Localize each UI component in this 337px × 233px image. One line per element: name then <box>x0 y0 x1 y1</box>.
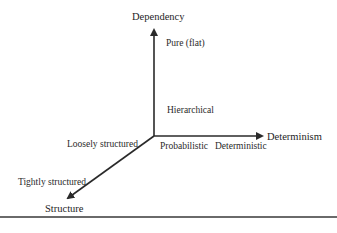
loosely-structured-label: Loosely structured <box>67 139 138 150</box>
determinism-axis-title: Determinism <box>267 131 322 142</box>
axes-diagram <box>0 0 337 233</box>
dependency-axis-title: Dependency <box>132 11 184 22</box>
tightly-structured-label: Tightly structured <box>18 177 86 188</box>
divider-line <box>0 216 337 218</box>
probabilistic-label: Probabilistic <box>160 141 208 152</box>
structure-axis-title: Structure <box>45 203 84 214</box>
deterministic-label: Deterministic <box>215 141 267 152</box>
hierarchical-label: Hierarchical <box>167 105 214 116</box>
pure-flat-label: Pure (flat) <box>166 38 205 49</box>
